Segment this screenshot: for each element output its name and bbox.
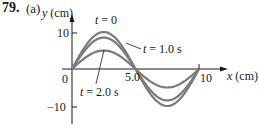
annotation-t1: t = 1.0 s (143, 42, 182, 56)
wave-chart: y (cm) x (cm) 10 −10 0 5.0 10 t = 0 t = … (0, 0, 259, 127)
x-tick-label-5: 5.0 (125, 70, 140, 84)
x-tick-label-0: 0 (62, 72, 68, 86)
annotation-t0: t = 0 (95, 13, 117, 27)
leader-t2 (96, 50, 104, 84)
x-tick-label-10: 10 (200, 71, 212, 85)
x-axis-label: x (cm) (226, 69, 258, 83)
annotation-t2: t = 2.0 s (80, 85, 119, 99)
y-tick-label-neg10: −10 (47, 100, 66, 114)
y-axis-label: y (cm) (41, 6, 73, 20)
leader-t1 (126, 43, 141, 49)
y-tick-label-10: 10 (57, 26, 69, 40)
